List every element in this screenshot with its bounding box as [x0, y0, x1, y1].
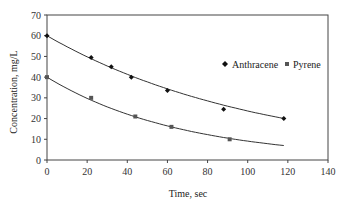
square-marker-icon — [285, 62, 289, 66]
x-tick-label: 100 — [240, 166, 255, 177]
legend-label-anthracene: Anthracene — [232, 59, 279, 70]
y-axis-title: Concentration, mg/L — [8, 50, 19, 133]
data-point — [228, 137, 232, 141]
legend-label-pyrene: Pyrene — [293, 59, 321, 70]
series-anthracene — [45, 33, 287, 121]
legend-item-anthracene: Anthracene — [222, 59, 279, 70]
data-point — [281, 116, 286, 121]
y-tick-label: 10 — [31, 134, 41, 145]
series-pyrene — [45, 75, 284, 145]
series-layer — [45, 33, 287, 145]
plot-area — [47, 15, 328, 160]
y-tick-label: 50 — [31, 51, 41, 62]
data-point — [133, 115, 137, 119]
y-tick-label: 0 — [36, 155, 41, 166]
y-tick-label: 30 — [31, 92, 41, 103]
x-tick-label: 140 — [321, 166, 336, 177]
y-axis: 010203040506070 — [31, 10, 47, 166]
concentration-chart: 010203040506070 020406080100120140 Conce… — [0, 0, 355, 209]
data-point — [89, 96, 93, 100]
x-axis: 020406080100120140 — [45, 160, 336, 177]
y-tick-label: 40 — [31, 72, 41, 83]
x-tick-label: 0 — [45, 166, 50, 177]
x-axis-title: Time, sec — [169, 188, 208, 199]
x-tick-label: 40 — [122, 166, 132, 177]
data-point — [169, 125, 173, 129]
x-tick-label: 80 — [203, 166, 213, 177]
legend: Anthracene Pyrene — [222, 59, 321, 70]
fit-curve — [47, 36, 284, 119]
x-tick-label: 20 — [82, 166, 92, 177]
data-point — [221, 107, 226, 112]
y-tick-label: 60 — [31, 30, 41, 41]
x-tick-label: 60 — [162, 166, 172, 177]
diamond-marker-icon — [222, 61, 228, 67]
data-point — [165, 88, 170, 93]
legend-item-pyrene: Pyrene — [285, 59, 321, 70]
data-point — [45, 75, 49, 79]
y-tick-label: 20 — [31, 113, 41, 124]
data-point — [45, 33, 50, 38]
y-tick-label: 70 — [31, 10, 41, 21]
x-tick-label: 120 — [280, 166, 295, 177]
plot-border — [47, 15, 328, 160]
